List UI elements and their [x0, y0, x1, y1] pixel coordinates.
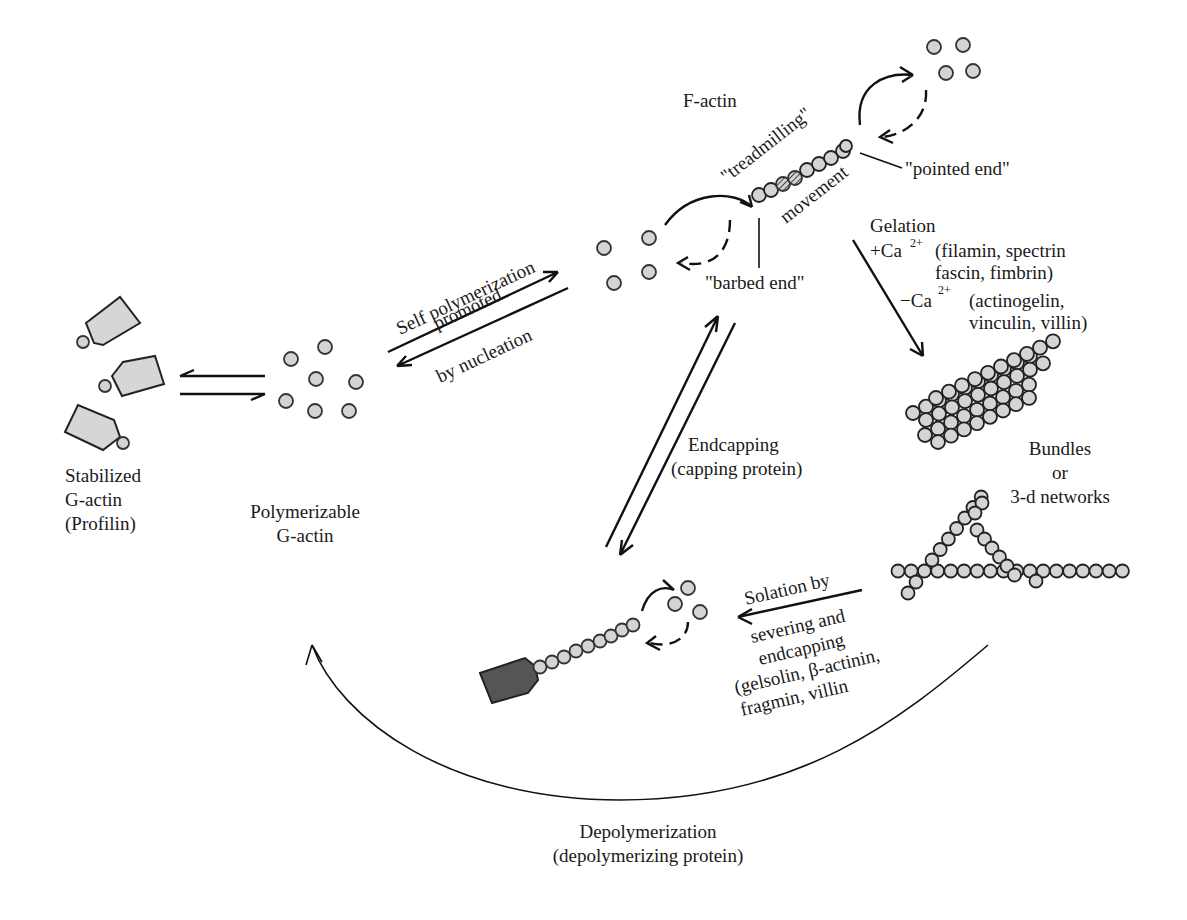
svg-text:G-actin: G-actin	[277, 525, 334, 546]
actin-monomer	[969, 507, 982, 520]
actin-monomer	[945, 400, 959, 414]
actin-monomer	[984, 565, 997, 578]
actin-monomer	[968, 372, 982, 386]
actin-cycle-diagram: Stabilized G-actin (Profilin) Polymeriza…	[0, 0, 1187, 920]
actin-monomer	[902, 587, 915, 600]
self-polymerization-label: Self polymerization promoted by nucleati…	[393, 256, 539, 387]
actin-monomer	[971, 565, 984, 578]
svg-text:Solation by: Solation by	[742, 569, 832, 609]
actin-monomer	[931, 422, 945, 436]
svg-text:fascin, fimbrin): fascin, fimbrin)	[935, 262, 1053, 284]
pointed-end-monomers	[927, 38, 980, 80]
actin-monomer	[918, 428, 932, 442]
actin-bundle	[906, 334, 1060, 449]
capped-filament	[480, 619, 640, 704]
actin-monomer	[981, 366, 995, 380]
actin-monomer	[983, 397, 997, 411]
profilin-complex-icon	[99, 356, 164, 396]
svg-text:Endcapping: Endcapping	[688, 434, 779, 455]
actin-monomer	[1023, 363, 1037, 377]
actin-monomer	[994, 360, 1008, 374]
actin-monomer	[1090, 565, 1103, 578]
polymerizable-g-actin-label: Polymerizable G-actin	[250, 501, 360, 546]
actin-monomer	[1076, 565, 1089, 578]
actin-monomer	[1050, 565, 1063, 578]
profilin-complex-icon	[65, 405, 129, 450]
svg-text:G-actin: G-actin	[65, 489, 122, 510]
actin-monomer	[944, 565, 957, 578]
svg-text:(depolymerizing protein): (depolymerizing protein)	[553, 845, 743, 867]
actin-monomer	[1036, 356, 1050, 370]
svg-text:2+: 2+	[938, 283, 951, 297]
actin-monomer	[1022, 378, 1036, 392]
actin-monomer	[997, 375, 1011, 389]
depolymerization-arc	[312, 645, 988, 800]
svg-text:(filamin, spectrin: (filamin, spectrin	[935, 240, 1066, 262]
actin-monomer	[1116, 565, 1129, 578]
svg-text:3-d networks: 3-d networks	[1010, 486, 1110, 507]
profilin-complexes	[65, 297, 164, 450]
svg-text:vinculin, villin): vinculin, villin)	[969, 312, 1087, 334]
pointed-end-exchange-arrows	[859, 67, 926, 143]
actin-monomer	[1022, 391, 1036, 405]
actin-monomer	[1046, 334, 1060, 348]
svg-text:−Ca: −Ca	[900, 290, 932, 311]
actin-monomer	[944, 415, 958, 429]
actin-monomer	[970, 416, 984, 430]
actin-monomer	[919, 413, 933, 427]
actin-monomer	[958, 565, 971, 578]
actin-monomer	[932, 407, 946, 421]
svg-text:Bundles: Bundles	[1029, 438, 1091, 459]
actin-monomer	[944, 429, 958, 443]
actin-monomer	[970, 403, 984, 417]
gelation-label: Gelation +Ca 2+ (filamin, spectrin fasci…	[870, 215, 1087, 334]
actin-monomer	[1009, 397, 1023, 411]
depolymerization-label: Depolymerization (depolymerizing protein…	[553, 821, 743, 867]
actin-monomer	[1020, 347, 1034, 361]
svg-text:Depolymerization: Depolymerization	[579, 821, 717, 842]
actin-monomer	[984, 382, 998, 396]
profilin-complex-icon	[77, 297, 140, 348]
actin-monomer	[1009, 384, 1023, 398]
actin-monomer	[1063, 565, 1076, 578]
actin-monomer	[931, 435, 945, 449]
actin-monomer	[957, 422, 971, 436]
actin-monomer	[996, 390, 1010, 404]
f-actin-title: F-actin	[683, 90, 737, 111]
actin-monomer	[971, 388, 985, 402]
barbed-end-label: "barbed end"	[705, 272, 804, 293]
pointed-end-leader	[860, 153, 902, 168]
svg-text:2+: 2+	[910, 236, 923, 250]
actin-monomer	[958, 394, 972, 408]
svg-text:Stabilized: Stabilized	[65, 465, 141, 486]
polymerizable-monomers	[279, 340, 363, 418]
actin-monomer	[996, 404, 1010, 418]
actin-monomer	[1008, 569, 1021, 582]
actin-monomer	[1007, 353, 1021, 367]
stabilized-g-actin-label: Stabilized G-actin (Profilin)	[65, 465, 141, 535]
svg-text:Gelation: Gelation	[870, 215, 936, 236]
actin-monomer	[1103, 565, 1116, 578]
capped-end-monomers	[668, 581, 707, 619]
svg-text:(capping protein): (capping protein)	[671, 458, 802, 480]
svg-text:or: or	[1052, 462, 1069, 483]
pointed-end-label: "pointed end"	[905, 158, 1010, 179]
barbed-end-exchange-arrows	[665, 195, 752, 270]
actin-monomer	[892, 565, 905, 578]
svg-text:by nucleation: by nucleation	[433, 324, 536, 387]
actin-monomer	[983, 410, 997, 424]
equilibrium-arrows-profilin	[180, 370, 265, 400]
bundles-label: Bundles or 3-d networks	[1010, 438, 1110, 507]
svg-text:Polymerizable: Polymerizable	[250, 501, 360, 522]
actin-monomer	[906, 406, 920, 420]
actin-monomer	[955, 378, 969, 392]
svg-text:+Ca: +Ca	[870, 240, 902, 261]
actin-monomer	[929, 391, 943, 405]
actin-monomer	[1030, 575, 1043, 588]
barbed-end-monomers	[597, 231, 656, 290]
svg-text:(Profilin): (Profilin)	[65, 513, 136, 535]
actin-monomer	[1033, 341, 1047, 355]
svg-text:(actinogelin,: (actinogelin,	[969, 290, 1065, 312]
actin-monomer	[957, 409, 971, 423]
actin-monomer	[1010, 369, 1024, 383]
